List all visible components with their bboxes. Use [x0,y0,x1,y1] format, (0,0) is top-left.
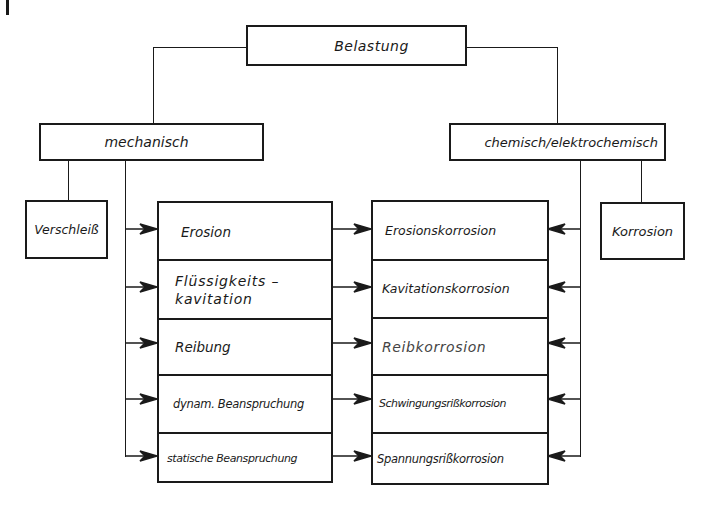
mechanical-type-label: dynam. Beanspruchung [173,397,304,411]
mechanical-type-label: Reibung [175,339,231,355]
corrosion-type-row-erosion: Erosionskorrosion [373,202,547,259]
connector-mechanical-branch [125,159,126,457]
category-box-mechanical: mechanisch [39,123,264,161]
mechanical-type-label: Flüssigkeits – [175,272,279,290]
side-label-verschleiss: Verschleiß [34,222,98,237]
margin-mark [6,0,9,15]
connector-root-mechanical-v [153,47,154,124]
root-label: Belastung [304,38,409,54]
corrosion-type-row-spannung: Spannungsrißkorrosion [373,433,547,484]
mechanical-type-row-dynam: dynam. Beanspruchung [159,375,331,432]
corrosion-type-row-schwingung: Schwingungsrißkorrosion [373,375,547,432]
side-box-verschleiss: Verschleiß [25,200,108,259]
corrosion-type-row-reib: Reibkorrosion [373,318,547,375]
mechanical-type-label: statische Beanspruchung [167,452,297,465]
connector-root-chemical-h [465,47,558,48]
corrosion-types-column: Erosionskorrosion Kavitationskorrosion R… [371,200,549,485]
corrosion-type-label: Spannungsrißkorrosion [377,452,504,466]
connector-mechanical-verschleiss [68,159,69,201]
mechanical-type-row-kavitation: Flüssigkeits – kavitation [159,261,331,318]
category-label-mechanical: mechanisch [104,134,198,150]
corrosion-type-label: Schwingungsrißkorrosion [379,397,506,410]
category-label-chemical: chemisch/elektrochemisch [484,135,658,150]
mechanical-type-label-line2: kavitation [175,290,253,308]
connector-root-mechanical-h [153,47,247,48]
root-box-belastung: Belastung [246,25,467,66]
corrosion-type-label: Reibkorrosion [382,339,486,355]
connector-chemical-korrosion [641,159,642,203]
corrosion-type-row-kavitation: Kavitationskorrosion [373,260,547,317]
mechanical-type-row-reibung: Reibung [159,319,331,375]
mechanical-types-column: Erosion Flüssigkeits – kavitation Reibun… [157,201,333,483]
corrosion-type-label: Kavitationskorrosion [382,281,510,296]
mechanical-type-row-erosion: Erosion [159,203,331,260]
mechanical-type-label: Erosion [181,224,231,240]
category-box-chemical: chemisch/elektrochemisch [449,123,666,161]
side-label-korrosion: Korrosion [612,224,673,239]
connector-chemical-branch [580,159,581,457]
corrosion-type-label: Erosionskorrosion [385,223,496,238]
mechanical-type-row-statisch: statische Beanspruchung [159,433,331,483]
connector-root-chemical-v [557,47,558,124]
side-box-korrosion: Korrosion [600,202,685,260]
